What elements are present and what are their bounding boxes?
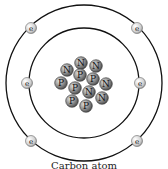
nucleus: NNNPPNPPNNPP bbox=[55, 57, 113, 113]
svg-text:e: e bbox=[25, 80, 29, 88]
electrons: eeeeee bbox=[22, 23, 146, 147]
proton: P bbox=[55, 77, 68, 90]
svg-text:N: N bbox=[102, 79, 110, 89]
svg-text:P: P bbox=[77, 70, 83, 80]
electron: e bbox=[26, 136, 37, 147]
carbon-atom-diagram: NNNPPNPPNNPP eeeeee bbox=[0, 0, 168, 169]
electron: e bbox=[132, 136, 143, 147]
svg-text:e: e bbox=[29, 25, 33, 33]
electron: e bbox=[132, 23, 143, 34]
neutron: N bbox=[83, 86, 96, 99]
svg-text:e: e bbox=[135, 138, 139, 146]
svg-text:e: e bbox=[135, 25, 139, 33]
proton: P bbox=[66, 95, 79, 108]
svg-text:P: P bbox=[58, 78, 64, 88]
svg-text:P: P bbox=[72, 83, 78, 93]
proton: P bbox=[80, 100, 93, 113]
svg-text:e: e bbox=[138, 80, 142, 88]
electron: e bbox=[26, 23, 37, 34]
svg-text:N: N bbox=[98, 93, 106, 103]
electron: e bbox=[135, 78, 146, 89]
svg-text:P: P bbox=[69, 96, 75, 106]
svg-text:N: N bbox=[77, 58, 85, 68]
svg-text:P: P bbox=[83, 101, 89, 111]
neutron: N bbox=[90, 60, 103, 73]
diagram-caption: Carbon atom bbox=[0, 160, 168, 169]
neutron: N bbox=[75, 57, 88, 70]
svg-text:N: N bbox=[92, 61, 100, 71]
inner-shell bbox=[29, 28, 139, 138]
proton: P bbox=[69, 82, 82, 95]
svg-text:P: P bbox=[90, 74, 96, 84]
svg-text:N: N bbox=[85, 87, 93, 97]
neutron: N bbox=[96, 92, 109, 105]
neutron: N bbox=[61, 64, 74, 77]
svg-text:N: N bbox=[63, 65, 71, 75]
neutron: N bbox=[100, 78, 113, 91]
svg-text:e: e bbox=[29, 138, 33, 146]
proton: P bbox=[87, 73, 100, 86]
proton: P bbox=[74, 69, 87, 82]
electron: e bbox=[22, 78, 33, 89]
